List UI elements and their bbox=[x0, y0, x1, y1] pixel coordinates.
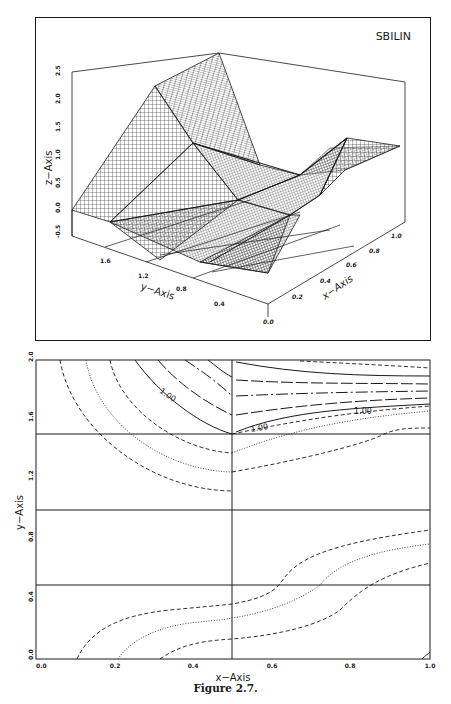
svg-text:1.0: 1.0 bbox=[54, 149, 61, 160]
svg-text:0.6: 0.6 bbox=[267, 662, 278, 669]
svg-text:0.6: 0.6 bbox=[346, 261, 357, 268]
contour-lines-bottom bbox=[77, 530, 430, 659]
contour-plot-canvas: 1.00 1.00 1.00 0.0 0.4 0.8 1.2 1.6 2.0 y… bbox=[0, 352, 451, 704]
figure-caption: Figure 2.7. bbox=[0, 682, 451, 694]
svg-text:0.8: 0.8 bbox=[345, 662, 356, 669]
surface-plot-canvas: SBILIN -0.5 0.0 0.5 1.0 1.5 2.0 2.5 z−Ax… bbox=[0, 0, 451, 352]
contour-label: 1.00 bbox=[250, 422, 269, 434]
z-axis-ticks: -0.5 0.0 0.5 1.0 1.5 2.0 2.5 bbox=[54, 65, 61, 238]
svg-text:0.4: 0.4 bbox=[214, 300, 225, 307]
svg-text:0.8: 0.8 bbox=[176, 285, 187, 292]
contour-plot: 1.00 1.00 1.00 0.0 0.4 0.8 1.2 1.6 2.0 y… bbox=[0, 352, 451, 704]
svg-text:2.0: 2.0 bbox=[54, 93, 61, 104]
svg-text:0.0: 0.0 bbox=[27, 649, 34, 660]
svg-text:-0.5: -0.5 bbox=[54, 225, 61, 238]
svg-text:1.0: 1.0 bbox=[391, 232, 402, 239]
surface-mesh bbox=[72, 53, 400, 273]
svg-text:0.0: 0.0 bbox=[263, 318, 274, 325]
svg-text:2.0: 2.0 bbox=[27, 352, 34, 362]
y-axis-label: y−Axis bbox=[14, 495, 25, 530]
surface-title: SBILIN bbox=[376, 30, 411, 43]
svg-text:0.0: 0.0 bbox=[54, 202, 61, 213]
svg-text:0.8: 0.8 bbox=[27, 531, 34, 542]
svg-text:1.6: 1.6 bbox=[27, 411, 34, 422]
contour-label: 1.00 bbox=[354, 407, 372, 416]
x-axis-ticks: 0.0 0.2 0.4 0.6 0.8 1.0 bbox=[263, 232, 402, 325]
contour-grid bbox=[36, 360, 430, 659]
svg-text:1.2: 1.2 bbox=[138, 272, 149, 279]
contour-lines-top-right bbox=[232, 361, 430, 472]
z-axis-label: z−Axis bbox=[43, 151, 54, 185]
svg-text:0.4: 0.4 bbox=[320, 277, 331, 284]
x-axis-ticks: 0.0 0.2 0.4 0.6 0.8 1.0 bbox=[36, 662, 435, 669]
contour-lines-top-left bbox=[60, 360, 232, 491]
svg-text:0.2: 0.2 bbox=[110, 662, 121, 669]
svg-text:0.4: 0.4 bbox=[27, 591, 34, 602]
svg-text:0.2: 0.2 bbox=[292, 293, 303, 300]
svg-text:2.5: 2.5 bbox=[54, 65, 61, 76]
svg-text:1.2: 1.2 bbox=[27, 470, 34, 481]
svg-text:0.8: 0.8 bbox=[369, 247, 380, 254]
svg-text:1.0: 1.0 bbox=[425, 662, 436, 669]
svg-text:0.5: 0.5 bbox=[54, 177, 61, 188]
svg-text:1.6: 1.6 bbox=[100, 257, 111, 264]
svg-text:0.0: 0.0 bbox=[36, 662, 47, 669]
surface-plot: SBILIN -0.5 0.0 0.5 1.0 1.5 2.0 2.5 z−Ax… bbox=[0, 0, 451, 352]
y-axis-ticks: 1.6 1.2 0.8 0.4 bbox=[100, 257, 225, 307]
svg-text:1.5: 1.5 bbox=[54, 121, 61, 132]
y-axis-ticks: 0.0 0.4 0.8 1.2 1.6 2.0 bbox=[27, 352, 34, 660]
svg-text:0.4: 0.4 bbox=[188, 662, 199, 669]
y-axis-label: y−Axis bbox=[139, 280, 176, 301]
